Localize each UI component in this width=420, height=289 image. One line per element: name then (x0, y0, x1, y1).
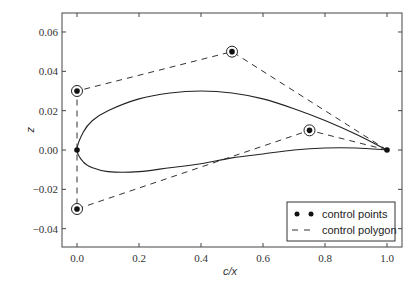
x-tick-label: 1.0 (380, 252, 394, 264)
y-tick-label: 0.02 (39, 105, 58, 117)
x-axis-label: c/x (223, 265, 238, 277)
y-tick-label: 0.00 (39, 144, 59, 156)
x-tick-label: 0.6 (256, 252, 270, 264)
airfoil-curve (77, 91, 387, 172)
legend: control points control polygon (287, 202, 397, 241)
control-points (72, 46, 390, 214)
control-point (384, 147, 390, 153)
legend-dot-icon (295, 212, 300, 217)
legend-label-polygon: control polygon (322, 224, 397, 236)
control-point (74, 206, 80, 212)
airfoil-chart: 0.00.20.40.60.81.00.060.040.020.00−0.02−… (0, 0, 420, 289)
x-tick-label: 0.2 (132, 252, 146, 264)
y-tick-label: 0.04 (39, 65, 59, 77)
legend-label-points: control points (322, 208, 388, 220)
control-point (74, 88, 80, 94)
legend-dot-icon (309, 212, 314, 217)
control-point (307, 128, 313, 134)
x-tick-label: 0.4 (194, 252, 208, 264)
control-point (74, 147, 80, 153)
y-axis-label: z (26, 126, 38, 133)
y-tick-label: −0.04 (33, 223, 59, 235)
control-polygon (77, 52, 387, 209)
control-point (229, 49, 235, 55)
y-tick-label: 0.06 (39, 26, 59, 38)
y-tick-label: −0.02 (33, 183, 58, 195)
x-tick-label: 0.8 (318, 252, 332, 264)
plot-series (77, 52, 387, 209)
x-tick-label: 0.0 (70, 252, 84, 264)
